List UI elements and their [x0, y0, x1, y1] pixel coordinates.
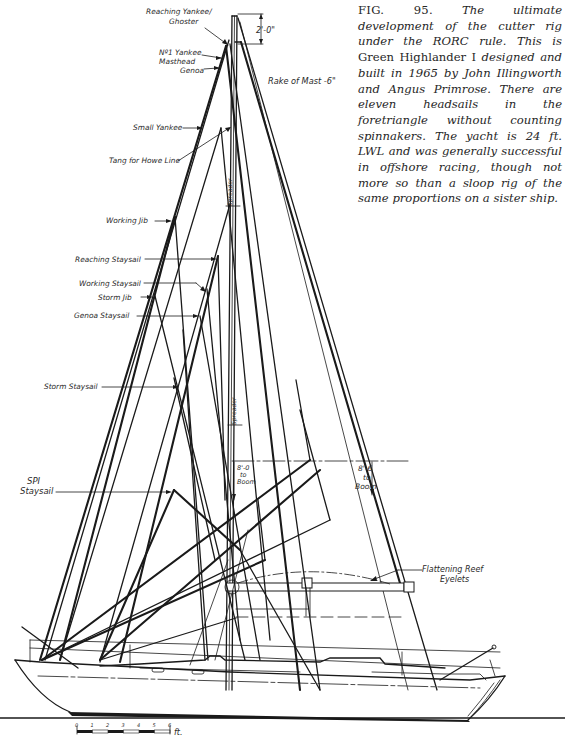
label-masthead-genoa-2: Genoa: [180, 66, 204, 75]
label-spi-1: SPI: [27, 476, 41, 486]
boom-left-label-3: Boom: [237, 478, 256, 486]
scale-tick-1: 1: [91, 722, 94, 728]
reef-eyelets-label-1: Flattening Reef: [422, 565, 484, 574]
spreader-lower-label: Spreader: [230, 397, 238, 425]
label-working-jib: Working Jib: [106, 216, 148, 225]
label-small-yankee: Small Yankee: [133, 123, 183, 132]
label-working-staysail: Working Staysail: [79, 279, 142, 288]
label-no1-yankee: Nº1 Yankee: [159, 48, 202, 57]
figure-caption: FIG. 95. The ultimate development of the…: [358, 3, 562, 207]
label-masthead-genoa-1: Masthead: [159, 57, 195, 66]
scale-tick-0: 0: [75, 722, 78, 728]
boom: [225, 572, 414, 617]
boom-right-label-1: 8'-6: [358, 464, 373, 473]
label-reaching-yankee-1: Reaching Yankee/: [146, 7, 213, 16]
sail-labels: Reaching Yankee/ Ghoster Nº1 Yankee Mast…: [20, 7, 231, 496]
label-storm-staysail: Storm Staysail: [44, 382, 99, 391]
boom-right-label-2: to: [363, 473, 371, 482]
label-reaching-yankee-2: Ghoster: [169, 17, 199, 26]
dimension-2ft-label: 2'-0": [256, 26, 275, 35]
boom-right-label-3: Boom: [355, 482, 377, 491]
scale-tick-6: 6: [168, 722, 171, 728]
label-reaching-staysail: Reaching Staysail: [75, 255, 142, 264]
reef-eyelets-label-2: Eyelets: [440, 575, 469, 584]
headsails: [40, 40, 330, 690]
rake-of-mast-label: Rake of Mast -6": [268, 76, 336, 86]
label-genoa-staysail: Genoa Staysail: [74, 311, 130, 320]
boat-name: Green Highlander I: [358, 50, 476, 64]
scale-tick-2: 2: [106, 722, 109, 728]
scale-tick-4: 4: [137, 722, 140, 728]
scale-tick-5: 5: [153, 722, 156, 728]
scale-bar: 0 1 2 3 4 5 6 ft.: [75, 722, 183, 737]
label-tang-howe-line: Tang for Howe Line: [109, 156, 180, 165]
hull: [0, 627, 565, 722]
figure-number: FIG. 95.: [358, 3, 433, 17]
label-storm-jib: Storm Jib: [98, 293, 132, 302]
caption-text-2: designed and built in 1965 by John Illin…: [358, 50, 562, 205]
spreader-upper-label: Spreader: [226, 178, 234, 206]
label-spi-2: Staysail: [20, 486, 54, 496]
scale-tick-3: 3: [122, 722, 125, 728]
scale-unit: ft.: [174, 728, 183, 737]
